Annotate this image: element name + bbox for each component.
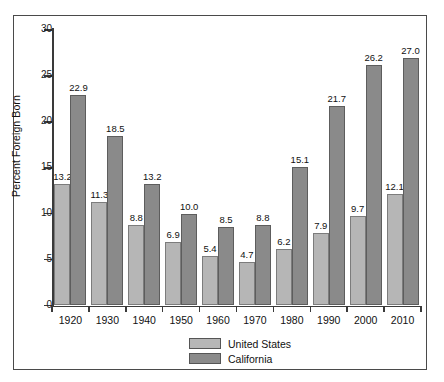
y-axis-tick-label: 10 <box>26 208 52 218</box>
y-axis-tick-label-wrap: 5 <box>0 254 52 264</box>
bar <box>181 214 197 306</box>
x-axis-tick <box>383 306 385 312</box>
bar <box>54 184 70 305</box>
bar <box>144 184 160 305</box>
x-axis-tick <box>236 306 238 312</box>
legend-label-california: California <box>228 353 272 365</box>
x-axis-tick <box>88 306 90 312</box>
x-axis-label: 2000 <box>346 314 386 326</box>
y-axis-tick-label-wrap: 10 <box>0 208 52 218</box>
bar <box>165 242 181 305</box>
x-axis-label: 1930 <box>87 314 127 326</box>
bar <box>350 216 366 305</box>
x-axis-tick <box>273 306 275 312</box>
x-axis-label: 1950 <box>161 314 201 326</box>
x-axis-tick <box>162 306 164 312</box>
y-axis-tick-label-wrap: 20 <box>0 116 52 126</box>
y-axis-tick-label-wrap: 25 <box>0 70 52 80</box>
legend-swatch-california <box>189 353 221 364</box>
y-axis-tick-label-wrap: 30 <box>0 24 52 34</box>
legend-item-california: California <box>189 352 309 365</box>
bar-value-label: 8.5 <box>208 215 244 225</box>
bar <box>218 227 234 305</box>
bar <box>70 95 86 305</box>
x-axis-label: 2010 <box>383 314 423 326</box>
y-axis-title: Percent Foreign Born <box>10 66 22 226</box>
bar-chart: Percent Foreign Born 051015202530 192019… <box>0 0 444 382</box>
bar <box>366 65 382 306</box>
legend-label-united-states: United States <box>228 338 291 350</box>
x-axis-label: 1960 <box>198 314 238 326</box>
bar <box>387 194 403 305</box>
y-axis-tick-label-wrap: 0 <box>0 300 52 310</box>
x-axis-label: 1970 <box>235 314 275 326</box>
y-axis-tick-label: 20 <box>26 116 52 126</box>
x-axis-tick <box>346 306 348 312</box>
y-axis-tick-label: 25 <box>26 70 52 80</box>
x-axis-tick <box>310 306 312 312</box>
x-axis-label: 1940 <box>124 314 164 326</box>
y-axis-tick-label-wrap: 15 <box>0 162 52 172</box>
bar <box>202 256 218 306</box>
x-axis-tick <box>51 306 53 312</box>
x-axis-tick <box>125 306 127 312</box>
x-axis-tick <box>199 306 201 312</box>
bar-value-label: 10.0 <box>171 202 207 212</box>
legend-item-united-states: United States <box>189 337 309 350</box>
bar <box>276 249 292 306</box>
bar-value-label: 8.8 <box>245 213 281 223</box>
bar-value-label: 27.0 <box>393 46 429 56</box>
x-axis-label: 1920 <box>50 314 90 326</box>
bar <box>403 58 419 306</box>
bar <box>255 225 271 306</box>
y-axis-line <box>52 28 54 307</box>
bar <box>329 106 345 305</box>
x-axis-label: 1990 <box>309 314 349 326</box>
y-axis-tick-label: 0 <box>26 300 52 310</box>
bar-value-label: 15.1 <box>282 155 318 165</box>
bar-value-label: 22.9 <box>60 83 96 93</box>
bar-value-label: 13.2 <box>134 172 170 182</box>
bar-value-label: 26.2 <box>356 53 392 63</box>
bar-value-label: 18.5 <box>97 124 133 134</box>
bar <box>128 225 144 306</box>
bar-value-label: 21.7 <box>319 94 355 104</box>
bar <box>91 202 107 306</box>
y-axis-tick-label: 15 <box>26 162 52 172</box>
chart-legend: United States California <box>189 337 309 367</box>
bar <box>107 136 123 306</box>
legend-swatch-united-states <box>189 338 221 349</box>
x-axis-label: 1980 <box>272 314 312 326</box>
x-axis-tick <box>420 306 422 312</box>
bar <box>239 262 255 305</box>
bar <box>292 167 308 306</box>
bar <box>313 233 329 306</box>
y-axis-tick-label: 30 <box>26 24 52 34</box>
y-axis-tick-label: 5 <box>26 254 52 264</box>
